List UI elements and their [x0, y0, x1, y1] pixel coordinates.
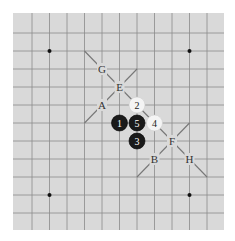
stone-number: 1	[117, 118, 122, 129]
point-label-e: E	[116, 81, 123, 93]
star-point	[48, 49, 52, 53]
point-label-a: A	[98, 99, 106, 111]
point-label-h: H	[186, 153, 194, 165]
star-point	[188, 193, 192, 197]
point-label-f: F	[169, 135, 175, 147]
point-label-b: B	[151, 153, 158, 165]
stone-number: 4	[152, 118, 157, 129]
stone-number: 2	[135, 100, 140, 111]
stone-number: 5	[135, 118, 140, 129]
go-board: GEAFBH 15324	[0, 0, 235, 241]
point-label-g: G	[98, 63, 106, 75]
star-point	[188, 49, 192, 53]
stone-number: 3	[135, 136, 140, 147]
star-point	[48, 193, 52, 197]
